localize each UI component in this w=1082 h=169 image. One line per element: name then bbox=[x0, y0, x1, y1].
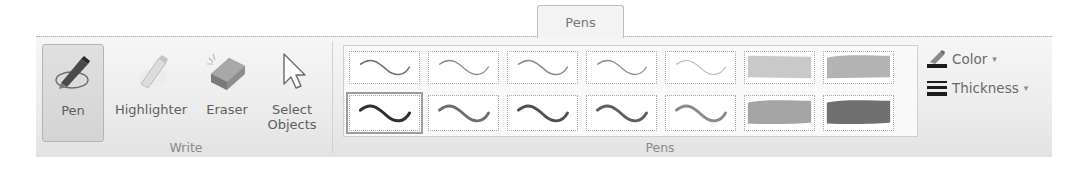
group-divider bbox=[332, 41, 333, 153]
color-label: Color bbox=[952, 51, 987, 67]
pen-swatch[interactable] bbox=[428, 95, 499, 131]
pen-swatch[interactable] bbox=[507, 95, 578, 131]
pen-color-icon bbox=[926, 49, 948, 69]
pen-label: Pen bbox=[61, 103, 85, 118]
eraser-icon bbox=[205, 50, 249, 94]
group-label-write: Write bbox=[146, 140, 226, 155]
highlighter-label: Highlighter bbox=[115, 102, 187, 117]
select-objects-label-line1: Select bbox=[272, 102, 312, 117]
highlighter-button[interactable]: Highlighter bbox=[108, 44, 194, 142]
cursor-arrow-icon bbox=[270, 50, 314, 94]
pen-swatch[interactable] bbox=[507, 51, 578, 84]
pen-swatch[interactable] bbox=[665, 95, 736, 131]
color-button[interactable]: Color ▾ bbox=[926, 49, 997, 69]
pen-icon bbox=[51, 51, 95, 95]
pen-swatch[interactable] bbox=[586, 95, 657, 131]
line-thickness-icon bbox=[926, 79, 948, 97]
select-objects-label-line2: Objects bbox=[267, 117, 316, 132]
thickness-button[interactable]: Thickness ▾ bbox=[926, 79, 1028, 97]
highlighter-swatch[interactable] bbox=[823, 51, 894, 84]
highlighter-swatch[interactable] bbox=[744, 51, 815, 84]
highlighter-icon bbox=[129, 50, 173, 94]
eraser-label: Eraser bbox=[206, 102, 248, 117]
pen-button[interactable]: Pen bbox=[42, 44, 104, 142]
group-label-pens: Pens bbox=[620, 140, 700, 155]
select-objects-button[interactable]: Select Objects bbox=[260, 44, 324, 142]
pen-swatch-selected[interactable] bbox=[349, 95, 420, 131]
pen-swatch[interactable] bbox=[665, 51, 736, 84]
pen-swatch[interactable] bbox=[349, 51, 420, 84]
chevron-down-icon: ▾ bbox=[992, 54, 997, 64]
pen-swatch[interactable] bbox=[586, 51, 657, 84]
chevron-down-icon: ▾ bbox=[1024, 83, 1029, 93]
thickness-label: Thickness bbox=[952, 80, 1019, 96]
highlighter-swatch[interactable] bbox=[823, 95, 894, 131]
ribbon-pens: Pen Highlighter Eraser Select Objects Wr… bbox=[36, 36, 1052, 157]
highlighter-swatch[interactable] bbox=[744, 95, 815, 131]
pens-gallery: ▲ ▼ ▾ bbox=[343, 45, 918, 137]
eraser-button[interactable]: Eraser bbox=[198, 44, 256, 142]
tab-pens[interactable]: Pens bbox=[537, 5, 624, 38]
pen-swatch[interactable] bbox=[428, 51, 499, 84]
